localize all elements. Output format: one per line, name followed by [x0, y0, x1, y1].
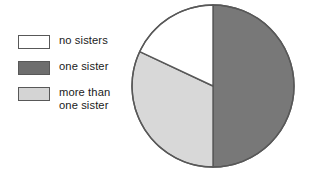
legend-item-one-sister: one sister: [18, 60, 138, 75]
pie-chart-figure: no sisters one sister more than one sist…: [0, 0, 318, 175]
pie-chart-svg: [131, 4, 295, 168]
legend-label-one-sister: one sister: [59, 60, 109, 73]
legend-item-no-sisters: no sisters: [18, 34, 138, 49]
pie-slice-one-sister: [213, 5, 294, 167]
dark-gray-square-swatch-icon: [18, 61, 50, 75]
legend-label-more-than-one-sister: more than one sister: [59, 86, 110, 111]
legend-label-no-sisters: no sisters: [59, 34, 108, 47]
pie-chart-plot-area: [131, 4, 295, 168]
legend-item-more-than-one-sister: more than one sister: [18, 86, 138, 111]
white-square-swatch-icon: [18, 35, 50, 49]
light-gray-square-swatch-icon: [18, 87, 50, 101]
chart-legend: no sisters one sister more than one sist…: [18, 34, 138, 122]
